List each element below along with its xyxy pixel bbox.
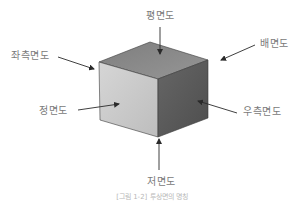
label-back-view: 배면도: [260, 38, 289, 50]
label-front-view: 정면도: [39, 105, 68, 117]
figure-caption: [그림 1-2] 투상면의 명칭: [0, 193, 304, 202]
arrow-back-view: [221, 45, 255, 60]
orthographic-views-diagram: 평면도 배면도 좌측면도 정면도 우측면도 저면도 [그림 1-2] 투상면의 …: [0, 0, 304, 202]
label-bottom-view: 저면도: [147, 176, 176, 188]
label-top-view: 평면도: [146, 10, 175, 22]
arrow-left-side-view: [58, 57, 94, 69]
cube-illustration: [0, 0, 304, 202]
label-left-side-view: 좌측면도: [11, 50, 49, 62]
label-right-side-view: 우측면도: [243, 106, 281, 118]
